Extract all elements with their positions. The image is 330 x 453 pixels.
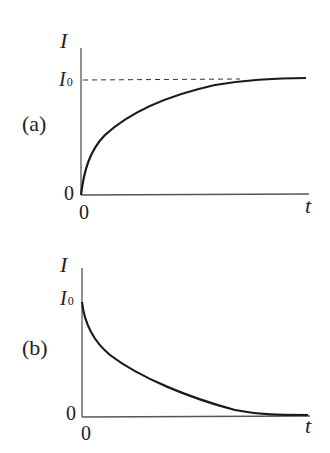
panel-a: I I0 (a) 0 0 t — [22, 28, 312, 223]
x-axis-a — [81, 194, 309, 195]
x-axis-label-a: t — [305, 193, 312, 218]
decaying-curve — [82, 302, 308, 415]
y-tick-i0-a: I0 — [58, 68, 73, 90]
rising-curve — [81, 78, 306, 195]
y-origin-b: 0 — [66, 402, 76, 424]
diagram-canvas: I I0 (a) 0 0 t I I0 (b) 0 0 t — [0, 0, 330, 453]
panel-b: I I0 (b) 0 0 t — [22, 252, 312, 444]
x-origin-a: 0 — [79, 201, 89, 223]
y-axis-label-a: I — [59, 28, 69, 53]
asymptote-dashed-line — [83, 79, 240, 80]
y-origin-a: 0 — [64, 182, 74, 204]
panel-label-b: (b) — [22, 335, 48, 360]
x-axis-label-b: t — [305, 413, 312, 438]
x-origin-b: 0 — [81, 422, 91, 444]
x-axis-b — [82, 416, 310, 417]
panel-label-a: (a) — [22, 111, 46, 136]
y-tick-i0-b: I0 — [59, 287, 74, 309]
y-axis-label-b: I — [59, 252, 69, 277]
